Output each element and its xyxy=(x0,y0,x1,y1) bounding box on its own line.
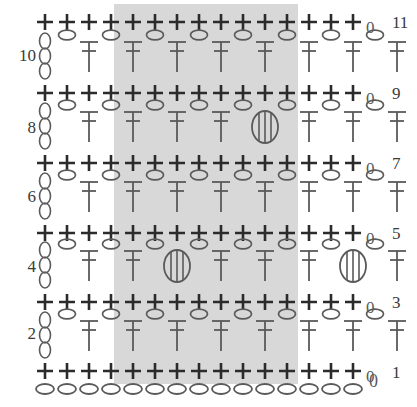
single-crochet-icon xyxy=(213,363,229,379)
turning-chain-oval xyxy=(40,203,51,219)
single-crochet-icon xyxy=(169,14,185,30)
single-crochet-icon xyxy=(59,363,75,379)
single-crochet-icon xyxy=(301,14,317,30)
single-crochet-icon xyxy=(345,85,361,101)
chain-stitch-icon xyxy=(146,384,164,394)
single-crochet-icon xyxy=(37,85,53,101)
single-crochet-icon xyxy=(59,85,75,101)
single-crochet-icon xyxy=(147,294,163,310)
turning-chain-oval xyxy=(40,188,51,204)
chain-stitch-icon xyxy=(256,384,274,394)
chain-stitch-icon xyxy=(235,309,252,319)
single-crochet-icon xyxy=(345,294,361,310)
single-crochet-icon xyxy=(213,85,229,101)
chain-stitch-icon xyxy=(147,170,164,180)
chain-stitch-icon xyxy=(168,384,186,394)
chain-stitch-icon xyxy=(147,100,164,110)
chain-stitch-icon xyxy=(235,100,252,110)
single-crochet-icon xyxy=(301,225,317,241)
chain-stitch-icon xyxy=(191,309,208,319)
chain-stitch-icon xyxy=(102,384,120,394)
chain-stitch-icon xyxy=(59,100,76,110)
single-crochet-icon xyxy=(279,85,295,101)
single-crochet-icon xyxy=(345,363,361,379)
turning-chain-oval xyxy=(40,257,51,273)
single-crochet-icon xyxy=(345,14,361,30)
single-crochet-icon xyxy=(323,294,339,310)
single-crochet-icon xyxy=(81,363,97,379)
single-crochet-icon xyxy=(257,14,273,30)
chain-stitch-icon xyxy=(59,30,76,40)
chain-stitch-icon xyxy=(212,384,230,394)
turning-chain-oval xyxy=(40,118,51,134)
single-crochet-icon xyxy=(191,155,207,171)
single-crochet-icon xyxy=(301,294,317,310)
chain-stitch-icon xyxy=(59,170,76,180)
chain-stitch-icon xyxy=(191,30,208,40)
turning-chain-oval xyxy=(40,312,51,328)
single-crochet-icon xyxy=(147,85,163,101)
single-crochet-icon xyxy=(103,294,119,310)
single-crochet-icon xyxy=(169,363,185,379)
single-crochet-icon xyxy=(125,155,141,171)
single-crochet-icon xyxy=(279,155,295,171)
single-crochet-icon xyxy=(81,85,97,101)
single-crochet-icon xyxy=(257,225,273,241)
chain-stitch-icon xyxy=(323,170,340,180)
single-crochet-icon xyxy=(235,294,251,310)
chain-stitch-icon xyxy=(103,30,120,40)
chain-stitch-icon xyxy=(300,384,318,394)
single-crochet-icon xyxy=(323,363,339,379)
single-crochet-icon xyxy=(59,294,75,310)
single-crochet-icon xyxy=(125,14,141,30)
single-crochet-icon xyxy=(301,363,317,379)
single-crochet-icon xyxy=(59,155,75,171)
single-crochet-icon xyxy=(213,225,229,241)
single-crochet-icon xyxy=(37,363,53,379)
single-crochet-icon xyxy=(125,85,141,101)
single-crochet-icon xyxy=(103,85,119,101)
chain-stitch-icon xyxy=(147,30,164,40)
single-crochet-icon xyxy=(81,294,97,310)
single-crochet-icon xyxy=(279,363,295,379)
chain-stitch-icon xyxy=(322,384,340,394)
single-crochet-icon xyxy=(323,85,339,101)
single-crochet-icon xyxy=(103,363,119,379)
single-crochet-icon xyxy=(345,155,361,171)
single-crochet-icon xyxy=(81,225,97,241)
turning-chain-oval xyxy=(40,48,51,64)
single-crochet-icon xyxy=(37,14,53,30)
chain-stitch-icon xyxy=(323,30,340,40)
single-crochet-icon xyxy=(169,294,185,310)
single-crochet-icon xyxy=(257,363,273,379)
chain-stitch-icon xyxy=(235,170,252,180)
chain-stitch-icon xyxy=(323,309,340,319)
turning-chain-oval xyxy=(40,242,51,258)
chain-stitch-icon xyxy=(191,100,208,110)
single-crochet-icon xyxy=(301,85,317,101)
single-crochet-icon xyxy=(37,225,53,241)
single-crochet-icon xyxy=(257,85,273,101)
single-crochet-icon xyxy=(257,155,273,171)
turning-chain-oval xyxy=(40,103,51,119)
single-crochet-icon xyxy=(147,363,163,379)
single-crochet-icon xyxy=(235,155,251,171)
single-crochet-icon xyxy=(125,363,141,379)
crochet-chart: 0000000 1086421197531 xyxy=(0,0,417,407)
single-crochet-icon xyxy=(59,14,75,30)
single-crochet-icon xyxy=(213,294,229,310)
single-crochet-icon xyxy=(323,155,339,171)
single-crochet-icon xyxy=(103,14,119,30)
single-crochet-icon xyxy=(323,14,339,30)
single-crochet-icon xyxy=(191,14,207,30)
single-crochet-icon xyxy=(125,294,141,310)
single-crochet-icon xyxy=(213,155,229,171)
single-crochet-icon xyxy=(213,14,229,30)
single-crochet-icon xyxy=(279,14,295,30)
chain-stitch-icon xyxy=(279,100,296,110)
single-crochet-icon xyxy=(169,155,185,171)
chain-stitch-icon xyxy=(278,384,296,394)
chain-stitch-icon xyxy=(147,309,164,319)
chain-stitch-icon xyxy=(279,309,296,319)
chain-stitch-icon xyxy=(124,384,142,394)
